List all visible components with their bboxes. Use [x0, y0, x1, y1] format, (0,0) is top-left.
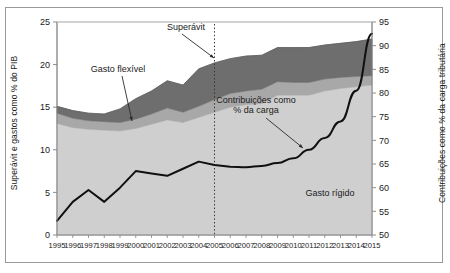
x-tick-label: 2003 — [175, 241, 192, 250]
y-left-tick-label: 20 — [40, 60, 50, 70]
y-right-tick-label: 55 — [379, 207, 389, 217]
x-tick-label: 2008 — [253, 241, 270, 250]
y-right-tick-label: 65 — [379, 159, 389, 169]
x-tick-label: 2000 — [127, 241, 144, 250]
x-tick-label: 2013 — [332, 241, 349, 250]
y-left-tick-label: 5 — [45, 188, 50, 198]
y-axis-left-ticks: 0510152025 — [40, 17, 57, 240]
x-tick-label: 2010 — [285, 241, 302, 250]
x-tick-label: 2011 — [301, 241, 317, 250]
annotation-gasto-rigido: Gasto rígido — [305, 188, 354, 198]
x-tick-label: 1997 — [80, 241, 97, 250]
y-right-tick-label: 60 — [379, 183, 389, 193]
y-left-tick-label: 15 — [40, 102, 50, 112]
y-left-tick-label: 25 — [40, 17, 50, 27]
y-right-tick-label: 70 — [379, 136, 389, 146]
x-tick-label: 1999 — [112, 241, 129, 250]
y-right-tick-label: 80 — [379, 88, 389, 98]
x-tick-label: 1998 — [96, 241, 113, 250]
x-tick-label: 1996 — [64, 241, 81, 250]
x-tick-label: 2012 — [316, 241, 333, 250]
y-left-tick-label: 10 — [40, 145, 50, 155]
x-tick-label: 2001 — [143, 241, 160, 250]
annotation-contribuicoes-line1: Contribuições como — [216, 95, 296, 105]
y-left-tick-label: 0 — [45, 230, 50, 240]
x-tick-label: 2015 — [364, 241, 381, 250]
y-axis-right-ticks: 50556065707580859095 — [372, 17, 389, 240]
chart-canvas: 0510152025 50556065707580859095 19951996… — [0, 0, 450, 273]
y-right-tick-label: 90 — [379, 41, 389, 51]
annotation-contribuicoes-line2: % da carga — [233, 105, 279, 115]
x-tick-label: 2014 — [348, 241, 365, 250]
y-right-tick-label: 85 — [379, 65, 389, 75]
x-tick-label: 2002 — [159, 241, 176, 250]
chart-figure: Superávit e gastos como % do PIB Contrib… — [0, 0, 450, 273]
x-tick-label: 2006 — [222, 241, 239, 250]
y-right-tick-label: 75 — [379, 112, 389, 122]
x-tick-label: 2007 — [238, 241, 255, 250]
x-tick-label: 2009 — [269, 241, 286, 250]
x-tick-label: 2005 — [206, 241, 223, 250]
x-tick-label: 2004 — [190, 241, 207, 250]
annotation-superavit: Superávit — [167, 22, 206, 32]
x-tick-label: 1995 — [49, 241, 66, 250]
y-right-tick-label: 50 — [379, 230, 389, 240]
x-axis-ticks: 1995199619971998199920002001200220032004… — [49, 235, 381, 250]
y-right-tick-label: 95 — [379, 17, 389, 27]
annotation-gasto-flexivel: Gasto flexível — [91, 64, 146, 74]
